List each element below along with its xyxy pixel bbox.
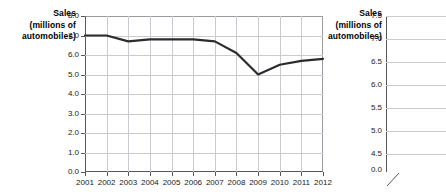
x-tick-mark	[236, 172, 237, 176]
y-axis-tick-label: 6.0	[362, 80, 382, 89]
y-axis-tick-label: 6.5	[362, 57, 382, 66]
gridline-horizontal	[386, 154, 446, 155]
x-tick-mark	[280, 172, 281, 176]
y-axis-title-left-line2: (millions of	[2, 20, 76, 32]
y-axis-tick-label: 6.0	[57, 50, 79, 59]
x-tick-mark	[323, 172, 324, 176]
plot-area-left	[85, 16, 323, 172]
y-axis-tick-label: 3.0	[57, 109, 79, 118]
y-axis-tick-label: 5.0	[362, 126, 382, 135]
x-tick-mark	[215, 172, 216, 176]
y-axis-tick-label: 8.0	[57, 11, 79, 20]
x-tick-mark	[107, 172, 108, 176]
y-axis-title-right-line2: (millions of	[316, 20, 382, 32]
y-axis-tick-label: 5.0	[57, 70, 79, 79]
y-axis-tick-label: 4.0	[57, 89, 79, 98]
x-tick-mark	[172, 172, 173, 176]
gridline-horizontal	[386, 62, 446, 63]
gridline-horizontal	[386, 131, 446, 132]
gridline-horizontal	[386, 85, 446, 86]
y-axis-tick-label: 7.5	[362, 11, 382, 20]
y-axis-tick-label: 0.0	[57, 167, 79, 176]
gridline-horizontal	[386, 16, 446, 17]
y-axis-tick-label: 4.5	[362, 149, 382, 158]
gridline-horizontal	[386, 39, 446, 40]
y-axis-tick-label: 1.0	[57, 148, 79, 157]
y-axis-tick-label: 7.0	[57, 31, 79, 40]
plot-area-right	[386, 16, 446, 172]
data-line-left	[85, 16, 323, 172]
y-axis-tick-label: 2.0	[57, 128, 79, 137]
x-tick-mark	[128, 172, 129, 176]
x-tick-mark	[150, 172, 151, 176]
x-tick-mark	[258, 172, 259, 176]
gridline-horizontal	[386, 108, 446, 109]
x-tick-mark	[193, 172, 194, 176]
series-sales-line	[85, 36, 323, 75]
axis-break-icon	[386, 172, 404, 188]
y-axis-tick-label: 7.0	[362, 34, 382, 43]
y-axis-tick-label: 5.5	[362, 103, 382, 112]
x-tick-mark	[301, 172, 302, 176]
x-axis-tick-label: 2012	[308, 178, 338, 187]
x-tick-mark	[85, 172, 86, 176]
y-axis-tick-label: 0.0	[362, 165, 382, 174]
